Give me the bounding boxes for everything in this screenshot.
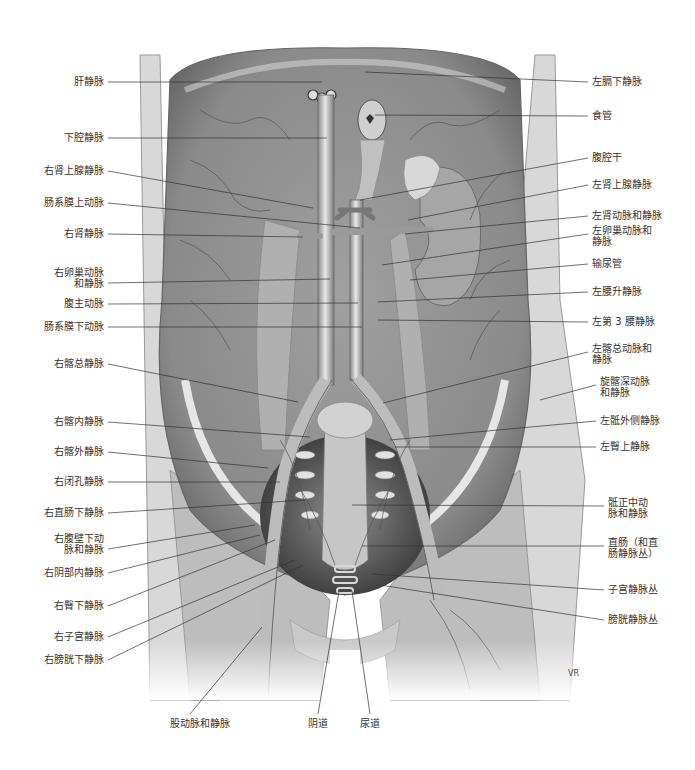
anatomy-label: 下腔静脉 [64, 132, 104, 143]
anatomy-label: 膀胱静脉丛 [608, 614, 658, 625]
anatomy-label: 右髂总静脉 [54, 358, 104, 369]
anatomy-label: 右阴部内静脉 [44, 567, 104, 578]
anatomy-label: 左肾动脉和静脉 [592, 210, 662, 221]
anatomy-label: 子宫静脉丛 [608, 584, 658, 595]
anatomy-figure: VR 肝静脉下腔静脉右肾上腺静脉肠系膜上动脉右肾静脉右卵巢动脉和静脉腹主动脉肠系… [0, 0, 695, 770]
anatomy-label: 腹腔干 [592, 152, 622, 163]
anatomy-label: 右子宫静脉 [54, 631, 104, 642]
anatomy-label: 尿道 [360, 718, 380, 729]
anatomy-label: 右肾静脉 [64, 228, 104, 239]
anatomy-label: 肝静脉 [74, 76, 104, 87]
anatomy-label: 骶正中动脉和静脉 [608, 497, 648, 519]
anatomy-label: 左第 3 腰静脉 [592, 316, 655, 327]
anatomy-label: 右膀胱下静脉 [44, 654, 104, 665]
anatomy-label: 食管 [592, 110, 612, 121]
anatomy-label: 左膈下静脉 [592, 76, 642, 87]
anatomy-label: 右髂内静脉 [54, 416, 104, 427]
anatomy-label: 肠系膜上动脉 [44, 197, 104, 208]
anatomy-label: 左肾上腺静脉 [592, 179, 652, 190]
anatomy-label: 腹主动脉 [64, 298, 104, 309]
anatomy-label: 左臀上静脉 [600, 441, 650, 452]
anatomy-label: 肠系膜下动脉 [44, 321, 104, 332]
anatomy-label: 左腰升静脉 [592, 286, 642, 297]
anatomy-label: 输尿管 [592, 258, 622, 269]
anatomy-label: 右闭孔静脉 [54, 476, 104, 487]
anatomy-label: 右髂外静脉 [54, 446, 104, 457]
artist-signature: VR [568, 669, 579, 678]
anatomy-label: 左髂总动脉和静脉 [592, 343, 652, 365]
anatomy-label: 旋髂深动脉和静脉 [600, 376, 650, 398]
anatomy-label: 左骶外侧静脉 [600, 415, 660, 426]
anatomy-label: 右卵巢动脉和静脉 [54, 267, 104, 289]
anatomy-label: 右肾上腺静脉 [44, 165, 104, 176]
anatomy-label: 右腹壁下动脉和静脉 [54, 533, 104, 555]
uterus [317, 402, 373, 438]
anatomy-label: 股动脉和静脉 [170, 718, 230, 729]
left-renal-vein [334, 230, 430, 232]
anatomy-label: 阴道 [308, 718, 328, 729]
anatomy-label: 左卵巢动脉和静脉 [592, 225, 652, 247]
anatomy-label: 右臀下静脉 [54, 600, 104, 611]
anatomy-label: 右直肠下静脉 [44, 507, 104, 518]
anatomy-label: 直肠（和直肠静脉丛） [608, 537, 658, 559]
abdominal-pelvic-veins-illustration: VR [0, 0, 695, 770]
inferior-vena-cava [318, 95, 334, 385]
